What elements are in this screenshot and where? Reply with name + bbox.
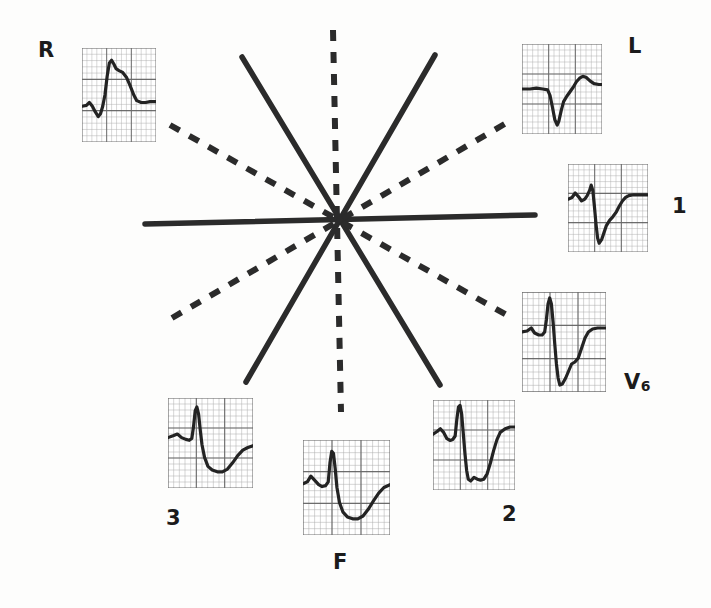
- ecg-trace-avf: [303, 451, 390, 518]
- ecg-panel-avr: [82, 48, 156, 142]
- ecg-trace-iii: [168, 407, 253, 472]
- hexaxial-ecg-figure: RL1V623F: [0, 0, 711, 608]
- lead-label-text: 3: [166, 506, 181, 530]
- ecg-grid-fine: [522, 292, 606, 392]
- ecg-trace-avr: [82, 60, 156, 116]
- lead-label-ii: 2: [502, 504, 517, 525]
- lead-label-avr: R: [38, 40, 55, 61]
- ecg-panel-ii: [433, 400, 515, 490]
- ecg-grid-bold: [522, 292, 606, 392]
- lead-label-text: 2: [502, 502, 517, 526]
- lead-label-iii: 3: [166, 508, 181, 529]
- ecg-grid-fine: [303, 440, 390, 535]
- ecg-panel-avl: [522, 44, 602, 134]
- ecg-grid-bold: [168, 398, 253, 488]
- lead-label-text: R: [38, 38, 55, 62]
- ecg-panel-iii: [168, 398, 253, 488]
- lead-label-v6: V6: [624, 372, 651, 393]
- ecg-panel-avf: [303, 440, 390, 535]
- ecg-grid-bold: [568, 164, 648, 252]
- ecg-grid-bold: [303, 440, 390, 535]
- lead-label-text: L: [628, 34, 642, 58]
- lead-label-avf: F: [333, 552, 348, 573]
- lead-label-text: V: [624, 370, 641, 394]
- ecg-grid-bold: [82, 48, 156, 142]
- lead-label-text: 1: [672, 194, 687, 218]
- ecg-panel-v6: [522, 292, 606, 392]
- ecg-grid-fine: [82, 48, 156, 142]
- ecg-grid-fine: [568, 164, 648, 252]
- ecg-grid-fine: [168, 398, 253, 488]
- lead-label-text: F: [333, 550, 348, 574]
- lead-label-avl: L: [628, 36, 642, 57]
- lead-label-subscript: 6: [641, 378, 651, 394]
- ecg-trace-ii: [433, 405, 515, 481]
- ecg-panel-i: [568, 164, 648, 252]
- ecg-trace-avl: [522, 76, 602, 125]
- lead-label-i: 1: [672, 196, 687, 217]
